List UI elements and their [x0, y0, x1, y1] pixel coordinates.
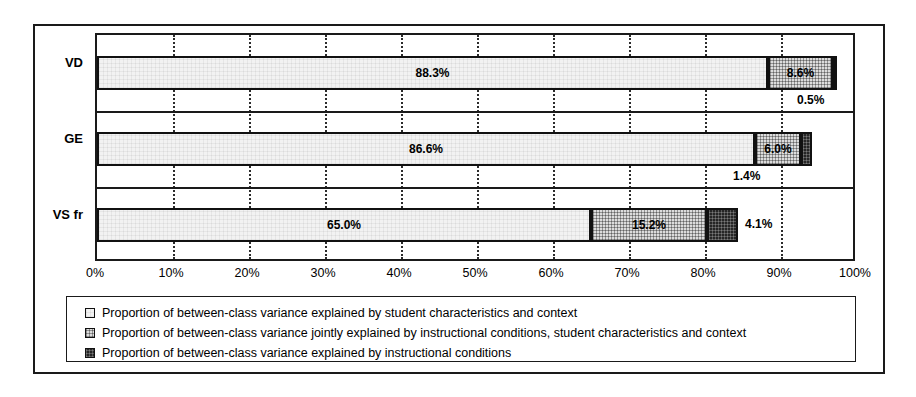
stacked-bar-chart-figure: VD GE VS fr 88.3% 8.6% — [0, 0, 916, 397]
x-tick-20: 20% — [234, 266, 259, 280]
bar-segment-vd-student[interactable]: 88.3% — [97, 56, 768, 90]
bar-segment-ge-student[interactable]: 86.6% — [97, 132, 755, 166]
legend-swatch-light-icon — [85, 308, 95, 318]
x-tick-10: 10% — [158, 266, 183, 280]
bar-segment-vd-joint[interactable]: 8.6% — [768, 56, 833, 90]
bar-segment-vs-fr-student[interactable]: 65.0% — [97, 208, 591, 242]
plot-area: 88.3% 8.6% 0.5% 0.5% 86.6% 6.0% — [95, 33, 855, 261]
x-tick-70: 70% — [614, 266, 639, 280]
x-tick-100: 100% — [839, 266, 871, 280]
x-tick-40: 40% — [386, 266, 411, 280]
bar-label-vs-fr-joint: 15.2% — [632, 218, 666, 232]
legend-label-joint: Proportion of between-class variance joi… — [102, 326, 746, 340]
plot-area-wrapper: 88.3% 8.6% 0.5% 0.5% 86.6% 6.0% — [95, 33, 855, 261]
category-label-vs-fr: VS fr — [13, 207, 83, 222]
x-tick-30: 30% — [310, 266, 335, 280]
legend-item-student[interactable]: Proportion of between-class variance exp… — [85, 304, 855, 322]
band-separator-2 — [97, 187, 853, 189]
bar-segment-vs-fr-joint[interactable]: 15.2% — [591, 208, 707, 242]
category-label-vd: VD — [13, 55, 83, 70]
legend-label-student: Proportion of between-class variance exp… — [102, 306, 577, 320]
band-separator-1 — [97, 111, 853, 113]
bar-segment-ge-joint[interactable]: 6.0% — [755, 132, 801, 166]
bar-label-vs-fr-instructional: 4.1% — [745, 217, 772, 231]
bar-label-vd-student: 88.3% — [415, 66, 449, 80]
legend-swatch-dark-icon — [85, 348, 95, 358]
legend-label-instructional: Proportion of between-class variance exp… — [102, 346, 511, 360]
bar-label-ge-instructional: 1.4% — [733, 169, 760, 183]
x-axis-tick-labels: 0% 10% 20% 30% 40% 50% 60% 70% 80% 90% 1… — [95, 266, 855, 286]
legend-swatch-dots-icon — [85, 328, 95, 338]
chart-legend: Proportion of between-class variance exp… — [66, 296, 856, 362]
x-tick-60: 60% — [538, 266, 563, 280]
legend-item-joint[interactable]: Proportion of between-class variance joi… — [85, 324, 855, 342]
legend-item-instructional[interactable]: Proportion of between-class variance exp… — [85, 344, 855, 362]
bar-segment-vs-fr-instructional[interactable]: 4.1% — [707, 208, 738, 242]
bar-label-vs-fr-student: 65.0% — [327, 218, 361, 232]
x-tick-90: 90% — [766, 266, 791, 280]
category-axis-labels: VD GE VS fr — [33, 33, 83, 261]
bar-label-ge-joint: 6.0% — [764, 142, 791, 156]
bar-segment-ge-instructional[interactable]: 1.4% — [801, 132, 812, 166]
bar-label-ge-student: 86.6% — [409, 142, 443, 156]
x-tick-80: 80% — [690, 266, 715, 280]
bar-label-vd-instructional: 0.5% — [797, 93, 824, 107]
x-tick-50: 50% — [462, 266, 487, 280]
category-label-ge: GE — [13, 131, 83, 146]
x-tick-0: 0% — [86, 266, 104, 280]
bar-label-vd-joint: 8.6% — [787, 66, 814, 80]
bar-segment-vd-instructional[interactable]: 0.5% — [833, 56, 837, 90]
